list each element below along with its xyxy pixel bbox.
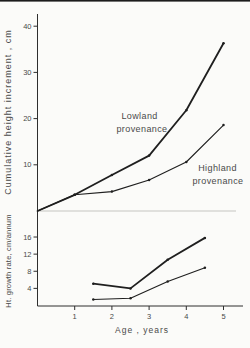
highland-series-label: Highland provenance [192, 163, 243, 186]
lowland-rate-curve [93, 238, 205, 289]
top-ytick-label-40: 40 [23, 22, 31, 31]
highland-cumulative-point [222, 124, 225, 127]
lowland-series-label: Lowland provenance [116, 111, 167, 134]
highland-cumulative-point [73, 194, 76, 197]
highland-cumulative-point [148, 179, 151, 182]
lowland-rate-point [92, 282, 95, 285]
lowland-rate-point [129, 287, 132, 290]
lowland-rate-point [166, 258, 169, 261]
x-tick-label-5: 5 [221, 312, 225, 321]
highland-cumulative-point [111, 190, 114, 193]
top-y-axis-label: Cumulative height increment , cm [3, 29, 13, 195]
highland-rate-curve [93, 268, 205, 300]
highland-rate-point [92, 298, 95, 301]
bottom-ytick-label-16: 16 [23, 233, 31, 242]
x-tick-label-4: 4 [184, 312, 188, 321]
lowland-cumulative-point [222, 42, 225, 45]
figure: 10203040 481216 12345 Cumulative height … [0, 0, 250, 348]
curves [38, 42, 225, 301]
highland-cumulative-point [185, 161, 188, 164]
x-ticks: 12345 [73, 306, 226, 321]
scan-edge-line [0, 0, 250, 2]
top-ytick-label-10: 10 [23, 160, 31, 169]
chart-svg: 10203040 481216 12345 Cumulative height … [0, 0, 250, 348]
highland-rate-point [166, 280, 169, 283]
top-ytick-label-30: 30 [23, 68, 31, 77]
x-tick-label-2: 2 [110, 312, 114, 321]
highland-rate-point [204, 267, 207, 270]
lowland-cumulative-point [111, 174, 114, 177]
x-tick-label-3: 3 [147, 312, 151, 321]
lowland-rate-point [204, 237, 207, 240]
bottom-ytick-label-12: 12 [23, 250, 31, 259]
lowland-cumulative-point [185, 109, 188, 112]
x-tick-label-1: 1 [73, 312, 77, 321]
bottom-y-axis-label: Ht. growth rate, cm/annum [4, 214, 13, 307]
bottom-ytick-label-4: 4 [27, 284, 31, 293]
x-axis-label: Age , years [115, 325, 169, 335]
lowland-cumulative-point [148, 154, 151, 157]
highland-rate-point [129, 297, 132, 300]
bottom-ytick-label-8: 8 [27, 267, 31, 276]
top-y-ticks: 10203040 [23, 22, 37, 170]
bottom-y-ticks: 481216 [23, 233, 37, 293]
top-ytick-label-20: 20 [23, 114, 31, 123]
